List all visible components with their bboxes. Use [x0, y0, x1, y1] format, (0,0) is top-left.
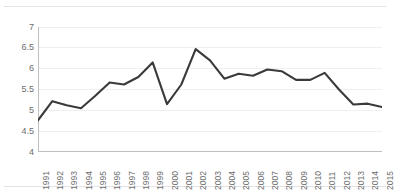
x-tick-label: 2009: [300, 171, 309, 190]
x-tick-label: 1992: [56, 171, 65, 190]
x-tick-label: 2007: [271, 171, 280, 190]
x-tick-label: 2000: [171, 171, 180, 190]
x-tick-label: 2011: [328, 172, 337, 190]
page-rule-top: [4, 6, 386, 7]
x-tick-label: 2013: [357, 171, 366, 190]
x-tick-label: 1991: [42, 171, 51, 190]
y-tick-label: 4.5: [4, 127, 34, 136]
plot-area: [38, 27, 382, 152]
x-tick-label: 2010: [314, 171, 323, 190]
x-tick-label: 1996: [113, 171, 122, 190]
x-tick-label: 1997: [128, 171, 137, 190]
gridlines: [38, 27, 382, 152]
x-tick-label: 2008: [285, 171, 294, 190]
x-tick-label: 1993: [70, 171, 79, 190]
line-chart-svg: [38, 27, 382, 152]
data-line-1: [38, 49, 382, 120]
x-tick-label: 2015: [386, 171, 395, 190]
y-tick-label: 6.5: [4, 43, 34, 52]
series-group: [38, 49, 382, 120]
y-tick-label: 6: [4, 64, 34, 73]
x-tick-label: 1998: [142, 171, 151, 190]
x-tick-label: 2014: [371, 171, 380, 190]
x-axis-labels: 1991199219931994199519961997199819992000…: [38, 156, 382, 194]
x-tick-label: 2001: [185, 171, 194, 190]
x-tick-label: 1999: [156, 171, 165, 190]
x-tick-label: 2006: [257, 171, 266, 190]
y-tick-label: 7: [4, 23, 34, 32]
x-tick-label: 2005: [242, 171, 251, 190]
y-tick-label: 5.5: [4, 85, 34, 94]
y-tick-label: 4: [4, 148, 34, 157]
y-tick-label: 5: [4, 106, 34, 115]
x-tick-label: 1995: [99, 171, 108, 190]
x-tick-label: 2012: [343, 171, 352, 190]
x-tick-label: 2003: [214, 171, 223, 190]
x-tick-label: 2004: [228, 171, 237, 190]
x-tick-label: 2002: [199, 171, 208, 190]
x-tick-label: 1994: [85, 171, 94, 190]
